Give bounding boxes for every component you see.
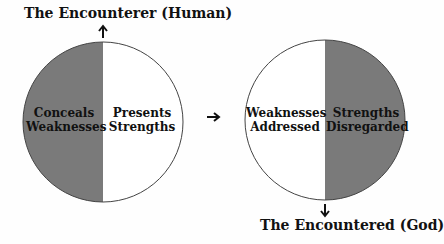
- top-label: The Encounterer (Human): [24, 5, 232, 21]
- up-arrow-icon: [99, 26, 107, 38]
- presents-strengths-label: Presents Strengths: [104, 106, 180, 134]
- bottom-label: The Encountered (God): [260, 217, 444, 233]
- label-line: Presents: [104, 106, 180, 120]
- right-arrow-icon: [207, 113, 219, 121]
- label-line: Addressed: [246, 120, 324, 134]
- label-line: Weaknesses: [246, 106, 324, 120]
- label-line: Strengths: [104, 120, 180, 134]
- label-line: Disregarded: [326, 120, 406, 134]
- label-line: Conceals: [26, 106, 102, 120]
- strengths-disregarded-label: Strengths Disregarded: [326, 106, 406, 134]
- label-line: Strengths: [326, 106, 406, 120]
- weaknesses-addressed-label: Weaknesses Addressed: [246, 106, 324, 134]
- label-line: Weaknesses: [26, 120, 102, 134]
- conceals-weaknesses-label: Conceals Weaknesses: [26, 106, 102, 134]
- down-arrow-icon: [321, 204, 329, 216]
